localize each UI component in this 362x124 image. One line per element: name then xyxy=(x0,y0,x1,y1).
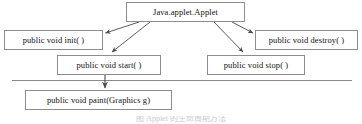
arrow-root-to-start xyxy=(112,22,150,52)
node-applet-root[interactable]: Java.applet.Applet xyxy=(126,2,245,22)
node-method-destroy[interactable]: public void destroy( ) xyxy=(255,30,358,50)
applet-lifecycle-figure: Java.applet.Applet public void init( ) p… xyxy=(0,0,362,124)
node-method-paint[interactable]: public void paint(Graphics g) xyxy=(25,90,172,110)
arrow-root-to-stop xyxy=(214,22,243,52)
arrow-root-to-destroy xyxy=(232,22,253,33)
node-method-start[interactable]: public void start( ) xyxy=(57,55,161,75)
node-method-init[interactable]: public void init( ) xyxy=(4,30,103,50)
arrow-root-to-init xyxy=(106,22,140,33)
node-method-stop[interactable]: public void stop( ) xyxy=(207,55,305,75)
